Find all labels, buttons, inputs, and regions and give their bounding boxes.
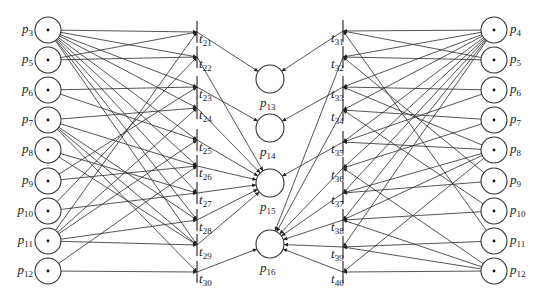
transition-label-t29: t29 [199, 244, 212, 261]
arc-p4r-t34 [343, 36, 483, 110]
arc-p4r-t31 [343, 30, 481, 31]
place-label-p8r: p8 [509, 141, 522, 158]
arc-p3-t24 [60, 36, 197, 108]
place-label-p12: p12 [17, 262, 34, 279]
place-label-p6r: p6 [509, 81, 522, 98]
arc-p5-t22 [61, 57, 197, 60]
place-p13 [256, 65, 284, 93]
place-label-p7r: p7 [509, 111, 522, 128]
transition-label-t32: t32 [331, 56, 344, 73]
arc-p10r-t34 [343, 110, 483, 204]
place-label-p3: p3 [21, 21, 34, 38]
token-icon [493, 59, 496, 62]
arc-p12r-t39 [343, 247, 481, 269]
arc-p10-t27 [61, 193, 197, 209]
arc-p12-t30 [61, 271, 197, 272]
place-label-p7: p7 [21, 111, 34, 128]
arc-p8r-t33 [343, 87, 482, 145]
arc-p12r-t36 [343, 168, 483, 264]
token-icon [47, 240, 50, 243]
place-label-p11r: p11 [509, 232, 525, 249]
place-label-p15: p15 [259, 199, 276, 216]
token-icon [493, 270, 496, 273]
place-label-p14: p14 [259, 144, 276, 161]
transition-label-t30: t30 [199, 271, 212, 288]
arc-p11-t28 [61, 220, 197, 239]
transition-label-t40: t40 [331, 271, 344, 288]
transition-label-t35: t35 [331, 141, 344, 158]
place-label-p16: p16 [259, 260, 276, 277]
place-label-p10: p10 [17, 202, 34, 219]
transition-label-t21: t21 [199, 31, 212, 48]
token-icon [47, 89, 50, 92]
transition-label-t25: t25 [199, 139, 212, 156]
transition-label-t31: t31 [331, 30, 344, 47]
arc-p7r-t34 [343, 110, 481, 119]
place-label-p5r: p5 [509, 51, 522, 68]
arc-p4r-t33 [343, 35, 482, 87]
token-icon [47, 59, 50, 62]
arc-p7-t28 [59, 127, 197, 220]
transition-label-t23: t23 [199, 86, 212, 103]
transition-label-t24: t24 [199, 107, 212, 124]
token-icon [493, 240, 496, 243]
token-icon [493, 210, 496, 213]
token-icon [47, 270, 50, 273]
arc-p11-t29 [61, 241, 197, 245]
place-p14 [256, 114, 284, 142]
token-icon [47, 149, 50, 152]
transition-label-t37: t37 [331, 192, 344, 209]
arc-p10r-t38 [343, 212, 481, 220]
token-icon [493, 149, 496, 152]
arc-p3-t21 [61, 30, 197, 32]
arc-p3-t26 [58, 39, 197, 166]
place-label-p9r: p9 [509, 172, 522, 189]
transition-label-t33: t33 [331, 86, 344, 103]
transition-label-t26: t26 [199, 165, 212, 182]
token-icon [47, 180, 50, 183]
place-label-p9: p9 [21, 172, 34, 189]
arc-t27-p15 [197, 185, 256, 193]
token-icon [493, 180, 496, 183]
place-label-p11: p11 [17, 232, 33, 249]
place-label-p10r: p10 [509, 202, 526, 219]
arc-p12r-t38 [343, 220, 482, 267]
place-label-p8: p8 [21, 141, 34, 158]
place-p15 [256, 169, 284, 197]
token-icon [493, 89, 496, 92]
token-icon [47, 210, 50, 213]
transition-label-t36: t36 [331, 167, 344, 184]
transition-label-t27: t27 [199, 192, 212, 209]
token-icon [493, 29, 496, 32]
arc-p6r-t33 [343, 87, 481, 90]
place-label-p6: p6 [21, 81, 34, 98]
transition-label-t39: t39 [331, 246, 344, 263]
token-icon [493, 119, 496, 122]
arc-p8r-t37 [343, 154, 481, 193]
place-label-p5: p5 [21, 51, 34, 68]
place-p16 [256, 230, 284, 258]
arc-p8r-t40 [343, 158, 484, 272]
place-label-p13: p13 [259, 95, 276, 112]
arc-p9-t23 [59, 87, 197, 174]
arc-p11r-t39 [343, 242, 481, 247]
place-label-p12r: p12 [509, 262, 526, 279]
token-icon [47, 29, 50, 32]
transition-label-t28: t28 [199, 219, 212, 236]
arc-p12r-t40 [343, 271, 481, 272]
place-label-p4r: p4 [509, 21, 522, 38]
arc-p9-t26 [61, 166, 197, 180]
transition-label-t22: t22 [199, 56, 212, 73]
token-icon [47, 119, 50, 122]
petri-net-diagram: p3p5p6p7p8p9p10p11p12p4p5p6p7p8p9p10p11p… [0, 0, 537, 301]
